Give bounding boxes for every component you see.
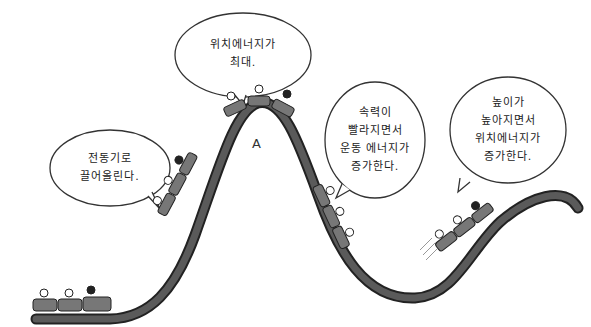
bubble-line: 최대. [185, 54, 301, 72]
speed-lines [420, 238, 437, 260]
point-a-label: A [252, 136, 261, 151]
bubble-line: 증가한다. [327, 158, 423, 176]
bubble-line: 높이가 [458, 94, 558, 112]
bubble-line: 위치에너지가 [458, 130, 558, 148]
bubble-line: 높아지면서 [458, 112, 558, 130]
bubble-line: 전동기로 [62, 150, 158, 168]
bubble-line: 운동 에너지가 [327, 140, 423, 158]
bubble-text-climb: 높이가 높아지면서 위치에너지가 증가한다. [458, 94, 558, 166]
bubble-line: 끌어올린다. [62, 168, 158, 186]
bubble-line: 증가한다. [458, 148, 558, 166]
bubble-line: 빨라지면서 [327, 122, 423, 140]
bubble-line: 위치에너지가 [185, 36, 301, 54]
bubble-text-lift: 전동기로 끌어올린다. [62, 150, 158, 186]
bubble-text-descent: 속력이 빨라지면서 운동 에너지가 증가한다. [327, 104, 423, 176]
bubble-line: 속력이 [327, 104, 423, 122]
bubble-text-top: 위치에너지가 최대. [185, 36, 301, 72]
coaster-train-station [33, 286, 111, 311]
